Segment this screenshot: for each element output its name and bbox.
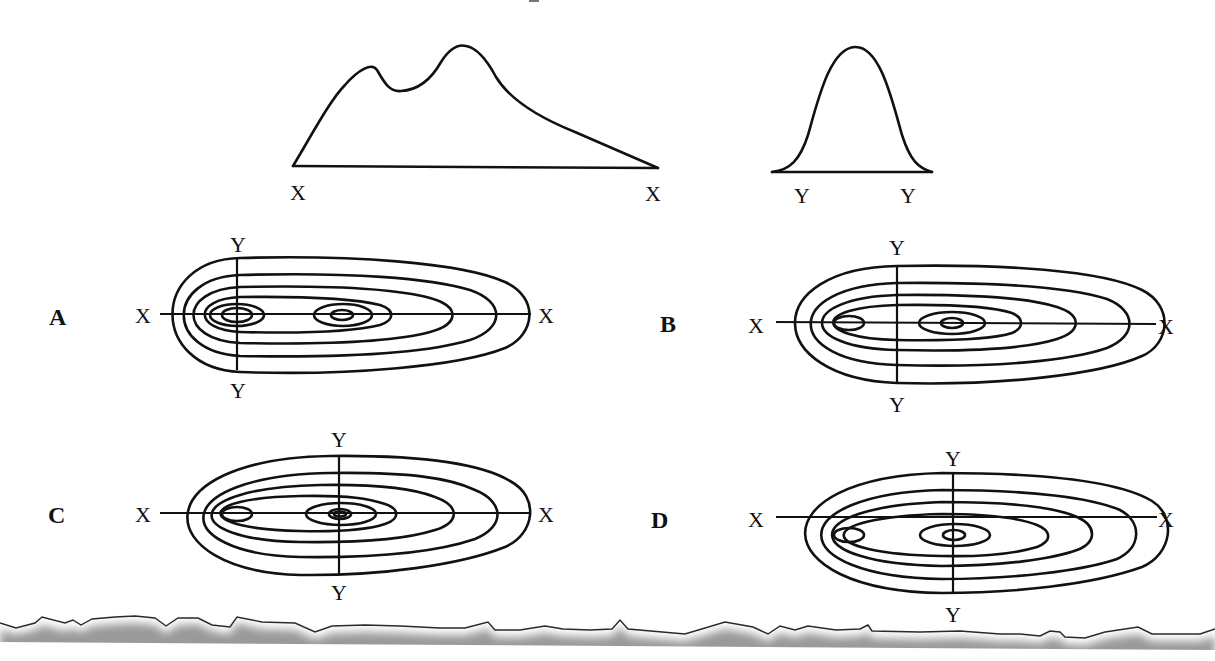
y-profile: Y Y bbox=[772, 47, 932, 208]
y-bottom-label: Y bbox=[889, 392, 905, 417]
x-right-label: X bbox=[1158, 314, 1174, 339]
y-bottom-label: Y bbox=[230, 378, 246, 403]
y-top-label: Y bbox=[230, 232, 246, 257]
x-profile-right-label: X bbox=[645, 181, 661, 206]
option-b[interactable]: B X X Y Y bbox=[660, 235, 1174, 417]
y-top-label: Y bbox=[889, 235, 905, 260]
x-profile-curve bbox=[293, 46, 658, 168]
option-a-letter: A bbox=[49, 304, 67, 330]
option-d-letter: D bbox=[651, 507, 668, 533]
x-right-label: X bbox=[538, 502, 554, 527]
x-profile: X X bbox=[290, 46, 661, 206]
option-c-letter: C bbox=[48, 502, 65, 528]
y-profile-left-label: Y bbox=[794, 183, 810, 208]
option-a[interactable]: A X X Y Y bbox=[49, 232, 554, 403]
x-left-label: X bbox=[135, 303, 151, 328]
contour-4 bbox=[844, 514, 1049, 556]
left-hill-ring-inner bbox=[834, 528, 864, 542]
y-top-label: Y bbox=[331, 427, 347, 452]
y-profile-right-label: Y bbox=[900, 183, 916, 208]
torn-paper-edge bbox=[0, 560, 1215, 661]
x-right-label: X bbox=[1158, 507, 1174, 532]
x-profile-baseline bbox=[293, 166, 658, 168]
x-left-label: X bbox=[748, 313, 764, 338]
x-profile-left-label: X bbox=[290, 180, 306, 205]
peak-ring-outer bbox=[920, 524, 990, 546]
option-b-letter: B bbox=[660, 311, 676, 337]
y-top-label: Y bbox=[945, 446, 961, 471]
top-artifact bbox=[529, 0, 539, 2]
topographic-diagram: X X Y Y A X X Y Y B bbox=[0, 0, 1215, 661]
y-profile-curve bbox=[772, 47, 932, 172]
x-left-label: X bbox=[135, 502, 151, 527]
x-left-label: X bbox=[748, 507, 764, 532]
x-right-label: X bbox=[538, 303, 554, 328]
